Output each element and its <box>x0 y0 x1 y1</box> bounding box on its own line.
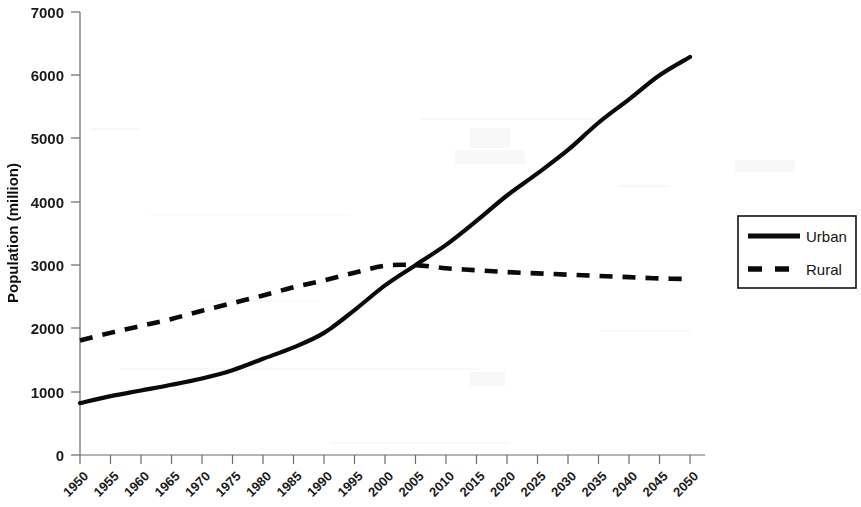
x-tick-label: 1970 <box>182 469 213 500</box>
x-tick-label: 2050 <box>670 469 701 500</box>
x-tick-label: 1990 <box>304 469 335 500</box>
y-tick-label: 6000 <box>31 67 64 84</box>
legend-label-rural: Rural <box>806 261 842 278</box>
y-tick-label: 1000 <box>31 384 64 401</box>
y-axis-tick-labels: 7000 6000 5000 4000 3000 2000 1000 0 <box>31 4 64 464</box>
chart-canvas: 7000 6000 5000 4000 3000 2000 1000 0 Pop… <box>0 0 861 507</box>
x-axis-ticks <box>80 455 690 464</box>
x-tick-label: 1975 <box>213 469 244 500</box>
x-tick-label: 1950 <box>60 469 91 500</box>
series-line-rural <box>80 265 690 341</box>
x-tick-label: 2030 <box>548 469 579 500</box>
scan-artifacts <box>90 118 795 444</box>
x-tick-label: 2040 <box>609 469 640 500</box>
y-tick-label: 3000 <box>31 257 64 274</box>
x-tick-label: 1985 <box>274 469 305 500</box>
y-tick-label: 5000 <box>31 130 64 147</box>
x-tick-label: 1980 <box>243 469 274 500</box>
y-tick-label: 2000 <box>31 320 64 337</box>
x-tick-label: 1960 <box>121 469 152 500</box>
x-tick-label: 2020 <box>487 469 518 500</box>
y-tick-label: 0 <box>56 447 64 464</box>
series-line-urban <box>80 57 690 403</box>
x-tick-label: 2005 <box>396 469 427 500</box>
x-axis-tick-labels: 1950195519601965197019751980198519901995… <box>60 469 701 500</box>
chart-legend: Urban Rural <box>738 216 856 288</box>
y-axis-ticks <box>71 12 80 455</box>
x-tick-label: 2010 <box>426 469 457 500</box>
legend-label-urban: Urban <box>806 228 847 245</box>
x-tick-label: 2000 <box>365 469 396 500</box>
x-tick-label: 2025 <box>518 469 549 500</box>
x-tick-label: 2035 <box>579 469 610 500</box>
population-line-chart: 7000 6000 5000 4000 3000 2000 1000 0 Pop… <box>0 0 861 507</box>
y-axis-title: Population (million) <box>4 163 21 303</box>
x-tick-label: 2015 <box>457 469 488 500</box>
x-tick-label: 1965 <box>152 469 183 500</box>
y-tick-label: 4000 <box>31 194 64 211</box>
x-tick-label: 1955 <box>91 469 122 500</box>
x-tick-label: 2045 <box>640 469 671 500</box>
y-tick-label: 7000 <box>31 4 64 21</box>
x-tick-label: 1995 <box>335 469 366 500</box>
